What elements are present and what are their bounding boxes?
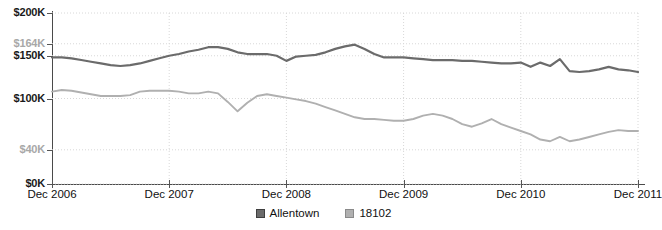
- legend-item-allentown[interactable]: Allentown: [256, 207, 320, 219]
- legend-swatch-18102-icon: [345, 209, 354, 218]
- y-axis-tick-mark: [47, 184, 53, 185]
- series-line-allentown: [52, 45, 638, 72]
- x-axis-tick-mark: [169, 180, 170, 188]
- y-axis-tick-mark: [47, 99, 53, 100]
- x-axis-tick-mark: [404, 180, 405, 188]
- chart-legend: Allentown 18102: [0, 207, 647, 219]
- legend-label-18102: 18102: [359, 207, 391, 219]
- x-axis-tick-label: Dec 2011: [614, 188, 662, 200]
- y-axis-tick-label: $164K: [14, 37, 45, 49]
- y-axis-tick-mark: [47, 13, 53, 14]
- x-axis-tick-label: Dec 2010: [496, 188, 545, 200]
- x-axis-tick-label: Dec 2008: [262, 188, 311, 200]
- y-axis-tick-mark: [47, 150, 53, 151]
- series-line-18102: [52, 90, 638, 141]
- y-axis-tick-label: $40K: [20, 143, 46, 155]
- x-axis-tick-mark: [521, 180, 522, 188]
- y-axis-tick-label: $100K: [14, 92, 45, 104]
- legend-label-allentown: Allentown: [270, 207, 320, 219]
- legend-item-18102[interactable]: 18102: [345, 207, 391, 219]
- x-axis-tick-label: Dec 2006: [27, 188, 76, 200]
- x-axis-tick-mark: [638, 180, 639, 188]
- x-axis-tick-label: Dec 2007: [145, 188, 194, 200]
- plot-svg: [52, 13, 638, 184]
- y-axis-tick-mark: [47, 56, 53, 57]
- x-axis-tick-mark: [286, 180, 287, 188]
- y-axis-tick-label: $150K: [14, 49, 45, 61]
- plot-area: [52, 13, 638, 184]
- y-axis-tick-label: $200K: [14, 6, 45, 18]
- legend-swatch-allentown-icon: [256, 209, 265, 218]
- y-axis-tick-mark: [47, 44, 53, 45]
- x-axis-tick-label: Dec 2009: [379, 188, 428, 200]
